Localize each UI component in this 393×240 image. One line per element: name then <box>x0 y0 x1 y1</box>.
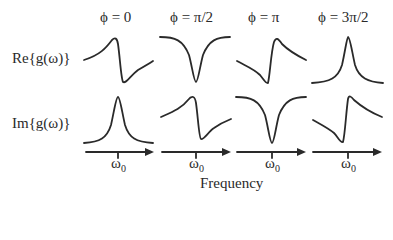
curve-re-phi-pi-half <box>160 37 230 82</box>
curve-im-phi-pi <box>236 97 306 143</box>
curve-re-phi-3pi-half <box>312 37 383 83</box>
curve-im-phi0 <box>84 97 153 143</box>
arrow-head-icon <box>222 148 231 156</box>
curve-im-phi-3pi-half <box>313 96 382 142</box>
arrow-head-icon <box>373 148 382 156</box>
x-axis-label: Frequency <box>200 175 263 192</box>
tick-label-omega0: ω0 <box>111 155 126 174</box>
curve-im-phi-pi-half <box>161 97 231 139</box>
arrow-head-icon <box>145 148 154 156</box>
curve-re-phi0 <box>84 38 153 82</box>
curve-re-phi-pi <box>237 39 306 83</box>
arrow-head-icon <box>297 148 306 156</box>
tick-label-omega0: ω0 <box>341 155 356 174</box>
tick-label-omega0: ω0 <box>189 155 204 174</box>
tick-label-omega0: ω0 <box>265 155 280 174</box>
